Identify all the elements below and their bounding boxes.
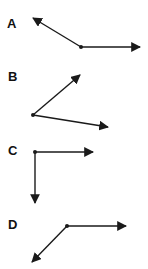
angle-b: [31, 75, 108, 127]
angle-c: [33, 150, 93, 203]
angle-d: [32, 224, 126, 262]
vertex-dot-icon: [33, 150, 37, 154]
ray-arrow-icon: [33, 75, 80, 115]
angle-diagrams: [0, 0, 148, 269]
vertex-dot-icon: [31, 113, 35, 117]
ray-arrow-icon: [33, 115, 108, 127]
angle-a: [33, 18, 140, 49]
ray-arrow-icon: [33, 18, 81, 47]
ray-arrow-icon: [32, 226, 67, 262]
vertex-dot-icon: [65, 224, 69, 228]
vertex-dot-icon: [79, 45, 83, 49]
